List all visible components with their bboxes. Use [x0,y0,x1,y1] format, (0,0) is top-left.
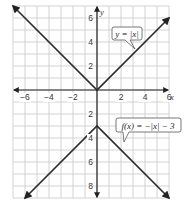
x-tick-label: −2 [68,92,78,102]
callouts: y = |x| f(x) = −|x| − 3 [112,27,181,142]
y-tick-label: 2 [88,61,93,71]
x-tick-label: −4 [44,92,54,102]
y-tick-label: 8 [88,181,93,191]
function-graph: −6−4−22466422468 x y y = |x| f(x) = −|x|… [0,0,184,203]
callout-2-text: f(x) = −|x| − 3 [121,121,175,131]
x-tick-label: 2 [119,92,124,102]
y-tick-label: 4 [88,133,93,143]
y-tick-label: 6 [88,157,93,167]
callout-1-text: y = |x| [114,29,139,39]
y-tick-label: 4 [88,37,93,47]
axis-names: x y [99,7,174,102]
y-tick-label: 2 [88,109,93,119]
y-tick-label: 6 [88,13,93,23]
y-axis-label: y [99,7,104,17]
x-tick-label: −6 [20,92,30,102]
x-tick-label: 4 [143,92,148,102]
callout-y-abs-x: y = |x| [112,27,142,49]
x-axis-label: x [169,92,174,102]
